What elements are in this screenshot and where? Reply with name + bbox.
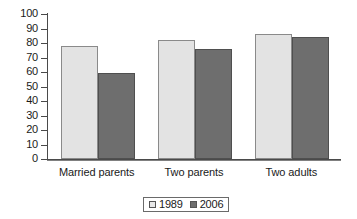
y-axis-tick <box>41 43 47 44</box>
y-axis-tick-label: 50 <box>4 81 38 92</box>
bar-2006-married-parents <box>98 73 135 159</box>
legend-label-1989: 1989 <box>159 199 183 210</box>
bar-1989-two-adults <box>255 34 292 159</box>
y-axis-tick <box>41 87 47 88</box>
y-axis-tick-label: 10 <box>4 139 38 150</box>
y-axis-tick-label: 60 <box>4 66 38 77</box>
legend-swatch-2006 <box>190 201 197 208</box>
y-axis-tick <box>41 72 47 73</box>
bars-layer <box>48 14 340 159</box>
y-axis-tick-label: 40 <box>4 95 38 106</box>
y-axis-tick-label: 70 <box>4 52 38 63</box>
legend-item-1989: 1989 <box>149 199 183 210</box>
legend-swatch-1989 <box>149 201 156 208</box>
legend-label-2006: 2006 <box>200 199 224 210</box>
bar-2006-two-adults <box>292 37 329 159</box>
y-axis-tick <box>41 101 47 102</box>
y-axis-tick <box>41 14 47 15</box>
y-axis-tick <box>41 145 47 146</box>
x-axis-label-married-parents: Married parents <box>48 166 145 178</box>
legend-item-2006: 2006 <box>190 199 224 210</box>
y-axis-tick <box>41 130 47 131</box>
y-axis-tick <box>41 58 47 59</box>
y-axis-tick-label: 0 <box>4 153 38 164</box>
y-axis-tick-label: 90 <box>4 23 38 34</box>
bar-chart: 0102030405060708090100 Married parentsTw… <box>0 0 357 219</box>
y-axis-tick <box>41 116 47 117</box>
y-axis-tick-label: 100 <box>4 8 38 19</box>
bar-1989-two-parents <box>158 40 195 159</box>
y-axis-tick-label: 80 <box>4 37 38 48</box>
y-axis-tick-label: 30 <box>4 110 38 121</box>
bar-1989-married-parents <box>61 46 98 159</box>
y-axis-tick <box>41 29 47 30</box>
y-axis-tick-label: 20 <box>4 124 38 135</box>
x-axis-line <box>47 159 341 161</box>
x-axis-label-two-adults: Two adults <box>243 166 340 178</box>
chart-legend: 19892006 <box>143 197 229 212</box>
bar-2006-two-parents <box>195 49 232 159</box>
x-axis-label-two-parents: Two parents <box>145 166 242 178</box>
y-axis-tick <box>41 159 47 160</box>
